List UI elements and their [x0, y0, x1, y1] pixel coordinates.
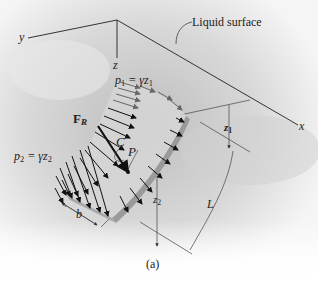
- point-p-label: P: [128, 145, 136, 158]
- y-axis-label: y: [19, 31, 24, 43]
- diagram-canvas: y z x Liquid surface p1 = γz1 p2 = γz2 F…: [0, 0, 318, 282]
- width-b-label: b: [76, 208, 82, 220]
- x-axis-label: x: [299, 120, 304, 132]
- z-axis-label: z: [113, 59, 118, 71]
- z2-dimension-label: z2: [153, 194, 161, 207]
- z1-dimension-label: z1: [224, 122, 232, 135]
- length-L-label: L: [207, 198, 214, 210]
- liquid-surface-label: Liquid surface: [192, 16, 262, 28]
- pressure-bottom-label: p2 = γz2: [14, 150, 52, 164]
- centroid-label: C: [116, 135, 125, 148]
- resultant-force-label: FR: [73, 112, 87, 127]
- diagram-svg: [0, 0, 318, 282]
- pressure-top-label: p1 = γz1: [115, 74, 153, 88]
- figure-caption: (a): [146, 258, 159, 270]
- point-p-marker: [126, 170, 130, 174]
